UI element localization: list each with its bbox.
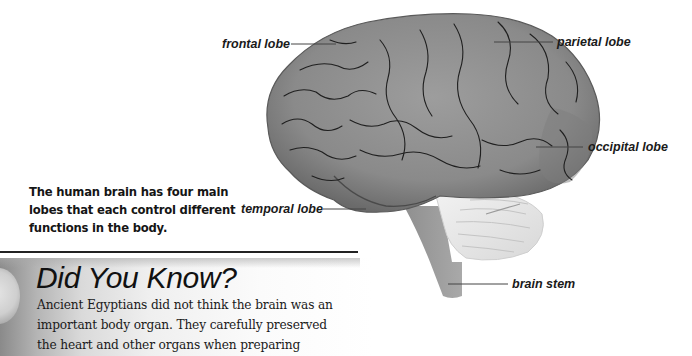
- label-brain-stem: brain stem: [512, 277, 575, 291]
- body-line: the heart and other organs when preparin…: [37, 335, 367, 355]
- label-frontal-lobe: frontal lobe: [222, 37, 290, 51]
- figure-caption: The human brain has four main lobes that…: [29, 183, 249, 237]
- did-you-know-body: Ancient Egyptians did not think the brai…: [37, 295, 367, 355]
- body-line: important body organ. They carefully pre…: [37, 315, 367, 335]
- label-parietal-lobe: parietal lobe: [557, 35, 631, 49]
- page: frontal lobe parietal lobe occipital lob…: [0, 0, 692, 356]
- did-you-know-title: Did You Know?: [36, 262, 237, 294]
- label-temporal-lobe: temporal lobe: [241, 202, 323, 216]
- cerebrum-shape: [267, 14, 600, 213]
- section-divider: [0, 251, 358, 253]
- body-line: Ancient Egyptians did not think the brai…: [37, 295, 367, 315]
- label-occipital-lobe: occipital lobe: [588, 140, 668, 154]
- cerebellum-shape: [436, 190, 543, 260]
